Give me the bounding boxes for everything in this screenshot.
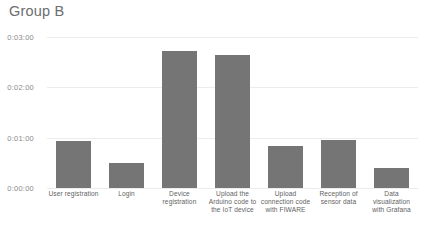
bar-user-registration[interactable] (56, 141, 91, 188)
bar-slot (47, 37, 100, 188)
bar-slot (100, 37, 153, 188)
gridline-3 (47, 188, 418, 189)
x-axis-label-upload-arduino-code: Upload the Arduino code to the IoT devic… (206, 190, 259, 215)
x-axis-label-upload-connection-code: Upload connection code with FIWARE (259, 190, 312, 215)
plot-area: 0:03:00 0:02:00 0:01:00 0:00:00 (47, 37, 418, 188)
bar-series (47, 37, 418, 188)
bar-chart: Group B 0:03:00 0:02:00 0:01:00 0:00:00 … (0, 0, 423, 237)
x-axis-label-user-registration: User registration (47, 190, 100, 215)
y-axis-label-1: 0:02:00 (0, 83, 34, 92)
x-axis-label-data-visualization: Data visualization with Grafana (365, 190, 418, 215)
bar-upload-arduino-code[interactable] (215, 55, 250, 188)
x-axis-label-login: Login (100, 190, 153, 215)
bar-upload-connection-code[interactable] (268, 146, 303, 188)
bar-slot (259, 37, 312, 188)
bar-slot (365, 37, 418, 188)
bar-login[interactable] (109, 163, 144, 188)
bar-reception-sensor-data[interactable] (321, 140, 356, 188)
bar-slot (312, 37, 365, 188)
bar-device-registration[interactable] (162, 51, 197, 188)
x-axis-labels: User registration Login Device registrat… (47, 190, 418, 215)
bar-data-visualization[interactable] (374, 168, 409, 188)
bar-slot (206, 37, 259, 188)
x-axis-label-reception-sensor-data: Reception of sensor data (312, 190, 365, 215)
bar-slot (153, 37, 206, 188)
y-axis-label-3: 0:00:00 (0, 184, 34, 193)
x-axis-label-device-registration: Device registration (153, 190, 206, 215)
y-axis-label-2: 0:01:00 (0, 133, 34, 142)
chart-title: Group B (9, 3, 64, 19)
y-axis-label-0: 0:03:00 (0, 33, 34, 42)
